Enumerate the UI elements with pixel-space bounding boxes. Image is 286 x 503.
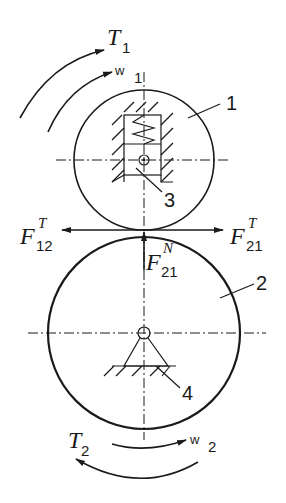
svg-text:2: 2 [208,438,216,455]
slider-housing [112,102,173,192]
friction-wheel-diagram: 1 3 F T 12 F T 21 F N 21 2 4 [0,0,286,503]
label-force-12-t: F T 12 [19,215,53,254]
svg-text:21: 21 [246,237,263,254]
label-omega-1: w 1 [114,63,142,86]
svg-text:2: 2 [81,442,89,459]
svg-text:F: F [229,223,245,249]
leader-2 [220,284,254,298]
svg-text:1: 1 [134,69,142,86]
svg-text:T: T [248,215,258,231]
label-omega-2: w 2 [189,432,216,455]
svg-text:N: N [162,240,174,256]
leader-1 [188,104,220,118]
label-torque-1: T 1 [107,24,130,56]
label-component-1: 1 [226,92,237,114]
svg-text:12: 12 [36,237,53,254]
label-force-21-n: F N 21 [145,240,178,280]
omega-2-arrow [112,440,186,448]
omega-1-arrow [48,72,112,132]
svg-text:T: T [107,24,122,50]
svg-text:T: T [38,215,48,231]
label-component-3: 3 [164,189,175,211]
label-component-4: 4 [182,382,193,404]
svg-text:w: w [189,432,200,447]
svg-text:F: F [19,223,35,249]
svg-text:1: 1 [122,39,130,56]
torque-2-arrow [76,459,198,478]
label-force-21-t: F T 21 [229,215,263,254]
label-component-2: 2 [256,272,267,294]
svg-text:21: 21 [161,263,178,280]
svg-text:w: w [114,63,125,78]
pin-support [104,327,180,388]
label-torque-2: T 2 [68,427,89,459]
svg-text:F: F [145,249,161,275]
